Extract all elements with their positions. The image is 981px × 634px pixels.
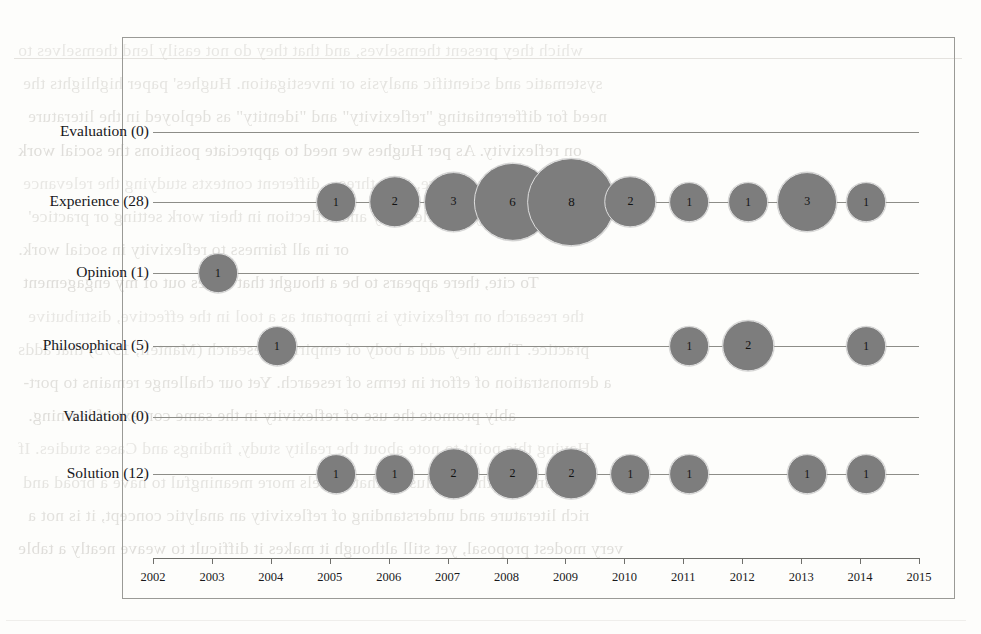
x-axis-tick-label: 2014 xyxy=(848,570,873,585)
data-bubble[interactable]: 1 xyxy=(316,182,356,222)
scan-streak xyxy=(6,620,966,621)
x-axis-tick-label: 2007 xyxy=(435,570,460,585)
chart-frame: 2002200320042005200620072008200920102011… xyxy=(122,37,955,599)
x-axis-tick-label: 2003 xyxy=(199,570,224,585)
y-axis-category-label: Experience (28) xyxy=(50,192,149,210)
x-axis-tick-label: 2005 xyxy=(317,570,342,585)
category-baseline xyxy=(153,417,919,418)
y-axis-category-label: Opinion (1) xyxy=(76,263,149,281)
y-axis-category-label: Philosophical (5) xyxy=(43,336,149,354)
data-bubble[interactable]: 1 xyxy=(669,326,709,366)
x-axis-tick-label: 2006 xyxy=(376,570,401,585)
data-bubble[interactable]: 1 xyxy=(846,182,886,222)
x-axis: 2002200320042005200620072008200920102011… xyxy=(153,558,919,598)
data-bubble[interactable]: 1 xyxy=(669,182,709,222)
y-axis-category-label: Evaluation (0) xyxy=(60,122,149,140)
y-axis-category-label: Validation (0) xyxy=(63,407,149,425)
data-bubble[interactable]: 2 xyxy=(428,448,479,499)
x-axis-tick-label: 2004 xyxy=(258,570,283,585)
data-bubble[interactable]: 1 xyxy=(846,326,886,366)
data-bubble[interactable]: 1 xyxy=(198,253,238,293)
x-axis-tick xyxy=(389,558,390,564)
data-bubble[interactable]: 1 xyxy=(846,454,886,494)
x-axis-tick-label: 2012 xyxy=(730,570,755,585)
x-axis-tick xyxy=(683,558,684,564)
data-bubble[interactable]: 2 xyxy=(546,448,597,499)
data-bubble[interactable]: 8 xyxy=(528,158,616,246)
x-axis-tick xyxy=(919,558,920,564)
x-axis-tick-label: 2015 xyxy=(907,570,932,585)
x-axis-tick xyxy=(742,558,743,564)
data-bubble[interactable]: 2 xyxy=(487,448,538,499)
category-baseline xyxy=(153,273,919,274)
data-bubble[interactable]: 1 xyxy=(316,454,356,494)
x-axis-tick-label: 2011 xyxy=(671,570,696,585)
category-baseline xyxy=(153,132,919,133)
x-axis-tick xyxy=(507,558,508,564)
data-bubble[interactable]: 1 xyxy=(611,454,651,494)
data-bubble[interactable]: 1 xyxy=(728,182,768,222)
x-axis-tick xyxy=(153,558,154,564)
x-axis-tick-label: 2009 xyxy=(553,570,578,585)
data-bubble[interactable]: 1 xyxy=(787,454,827,494)
x-axis-tick xyxy=(212,558,213,564)
x-axis-tick-label: 2008 xyxy=(494,570,519,585)
data-bubble[interactable]: 2 xyxy=(369,176,420,227)
x-axis-tick xyxy=(271,558,272,564)
x-axis-tick-label: 2002 xyxy=(141,570,166,585)
x-axis-tick xyxy=(624,558,625,564)
y-axis-category-label: Solution (12) xyxy=(67,464,149,482)
data-bubble[interactable]: 3 xyxy=(777,172,837,232)
x-axis-tick xyxy=(860,558,861,564)
data-bubble[interactable]: 1 xyxy=(257,326,297,366)
bubble-chart-plot: 2002200320042005200620072008200920102011… xyxy=(123,38,954,598)
x-axis-line xyxy=(153,558,919,559)
x-axis-tick xyxy=(330,558,331,564)
data-bubble[interactable]: 2 xyxy=(605,176,656,227)
data-bubble[interactable]: 1 xyxy=(375,454,415,494)
x-axis-tick-label: 2013 xyxy=(789,570,814,585)
data-bubble[interactable]: 2 xyxy=(722,320,773,371)
x-axis-tick xyxy=(565,558,566,564)
x-axis-tick xyxy=(801,558,802,564)
x-axis-tick xyxy=(448,558,449,564)
data-bubble[interactable]: 1 xyxy=(669,454,709,494)
x-axis-tick-label: 2010 xyxy=(612,570,637,585)
